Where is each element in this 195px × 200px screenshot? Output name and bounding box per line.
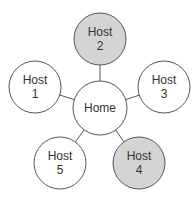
node-label-line2: 4 bbox=[127, 163, 152, 177]
node-label-host3: Host3 bbox=[152, 73, 177, 101]
node-label-line1: Host bbox=[152, 73, 177, 87]
node-label-line1: Host bbox=[48, 149, 73, 163]
node-label-line1: Host bbox=[127, 149, 152, 163]
node-label-line2: 5 bbox=[48, 163, 73, 177]
node-label-host5: Host5 bbox=[48, 149, 73, 177]
node-label-home: Home bbox=[84, 101, 116, 115]
node-label-host4: Host4 bbox=[127, 149, 152, 177]
node-label-host1: Host1 bbox=[23, 73, 48, 101]
node-label-line2: 2 bbox=[88, 39, 113, 53]
node-label-line1: Host bbox=[88, 25, 113, 39]
node-label-host2: Host2 bbox=[88, 25, 113, 53]
node-label-line2: 1 bbox=[23, 87, 48, 101]
node-label-line2: 3 bbox=[152, 87, 177, 101]
node-label-line1: Host bbox=[23, 73, 48, 87]
